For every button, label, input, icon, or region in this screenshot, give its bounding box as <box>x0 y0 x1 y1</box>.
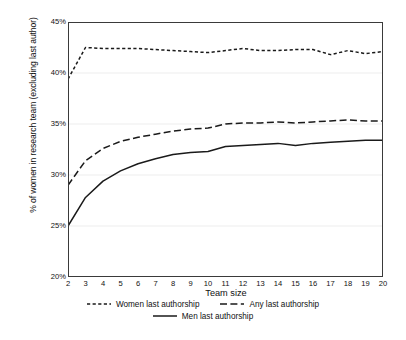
legend-item[interactable]: Any last authorship <box>220 300 319 309</box>
chart-svg <box>68 22 383 277</box>
x-axis-tick: 3 <box>83 280 87 288</box>
x-axis-tick: 7 <box>153 280 157 288</box>
x-axis-tick: 2 <box>66 280 70 288</box>
x-axis-tick: 11 <box>222 280 230 288</box>
legend-item[interactable]: Men last authorship <box>153 312 253 321</box>
legend-item[interactable]: Women last authorship <box>87 300 200 309</box>
plot-area <box>68 22 383 277</box>
y-axis-label: % of women in research team (excluding l… <box>28 0 38 240</box>
y-axis-tick-labels: 45%40%35%30%25%20% <box>38 0 66 340</box>
series-line <box>68 140 383 226</box>
x-axis-tick: 18 <box>344 280 352 288</box>
plot-frame <box>69 23 383 277</box>
gridlines <box>68 73 383 226</box>
x-axis-tick: 13 <box>256 280 264 288</box>
y-axis-tick: 40% <box>40 69 66 77</box>
x-axis-tick: 20 <box>379 280 387 288</box>
x-axis-tick: 19 <box>361 280 369 288</box>
y-axis-tick: 30% <box>40 171 66 179</box>
chart-figure: % of women in research team (excluding l… <box>0 0 406 340</box>
legend-label: Any last authorship <box>249 300 319 309</box>
y-axis-tick: 25% <box>40 222 66 230</box>
legend-label: Women last authorship <box>116 300 200 309</box>
x-axis-tick: 5 <box>118 280 122 288</box>
legend-label: Men last authorship <box>182 312 253 321</box>
chart-legend: Women last authorshipAny last authorship… <box>0 298 406 322</box>
legend-line-swatch <box>87 301 111 307</box>
y-axis-tick: 20% <box>40 273 66 281</box>
x-axis-tick: 17 <box>326 280 334 288</box>
x-axis-tick: 12 <box>239 280 247 288</box>
x-axis-tick: 16 <box>309 280 317 288</box>
legend-row: Men last authorship <box>0 310 406 322</box>
legend-line-swatch <box>153 313 177 319</box>
y-axis-tick: 45% <box>40 18 66 26</box>
x-axis-tick: 15 <box>291 280 299 288</box>
x-axis-label: Team size <box>68 288 384 298</box>
legend-row: Women last authorshipAny last authorship <box>0 298 406 310</box>
x-axis-tick: 14 <box>274 280 282 288</box>
x-axis-tick: 6 <box>136 280 140 288</box>
x-axis-tick: 4 <box>101 280 105 288</box>
x-axis-tick: 9 <box>188 280 192 288</box>
legend-line-swatch <box>220 301 244 307</box>
series-line <box>68 48 383 80</box>
y-axis-tick: 35% <box>40 120 66 128</box>
x-axis-tick: 8 <box>171 280 175 288</box>
data-series-layer <box>68 48 383 227</box>
x-axis-tick: 10 <box>204 280 212 288</box>
